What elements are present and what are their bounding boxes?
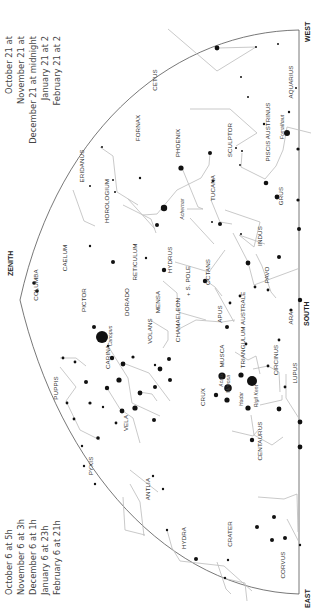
constellation-label-eridanus: ERIDANUS	[78, 150, 85, 183]
constellation-label-piscis-austrinus: PISCIS AUSTRINUS	[264, 102, 271, 161]
constellation-label-ara: ARA	[287, 311, 294, 325]
star-chart: CETUSAQUARIUSFORNAXSCULPTORPISCIS AUSTRI…	[0, 0, 320, 608]
constellation-label-volans: VOLANS	[146, 318, 153, 344]
constellation-label-antlia: ANTLIA	[144, 477, 151, 500]
west-label: WEST	[304, 21, 311, 42]
constellation-label-carina: CARINA	[104, 344, 111, 369]
constellation-label-reticulum: RETICULUM	[131, 244, 138, 281]
constellation-label-hydrus: HYDRUS	[166, 247, 173, 274]
svg-text:October 6 at 5h: October 6 at 5h	[4, 529, 14, 595]
star-label-mimosa: Mimosa	[225, 375, 231, 393]
star-label-rigil-kent: Rigil Kent	[253, 384, 259, 407]
constellation-label-corvus: CORVUS	[279, 552, 286, 579]
star-label-canopus: Canopus	[107, 325, 113, 346]
constellation-label-crux: CRUX	[199, 388, 206, 406]
constellation-label-mensa: MENSA	[154, 290, 161, 313]
svg-text:December 6 at 1h: December 6 at 1h	[28, 519, 38, 595]
constellation-label-lupus: LUPUS	[291, 362, 298, 383]
svg-text:January 21 at 2: January 21 at 2	[40, 36, 50, 101]
constellation-label-caelum: CAELUM	[61, 245, 68, 271]
star-label-fomalhaut: Fomalhaut	[279, 114, 285, 139]
constellation-label-pyxis: PYXIS	[87, 457, 94, 476]
constellation-label-vela: VELA	[122, 414, 129, 431]
constellation-label-tucana: TUCANA	[209, 174, 216, 201]
east-label: EAST	[304, 589, 311, 608]
svg-text:December 21 at midnight: December 21 at midnight	[28, 35, 38, 144]
star-label-hadar: Hadar	[238, 392, 244, 406]
south-label: SOUTH	[303, 302, 310, 327]
south-pole-label: + S. POLE	[184, 266, 191, 296]
star-label-acrux: Acrux	[218, 373, 224, 388]
svg-text:January 6 at 23h: January 6 at 23h	[40, 526, 50, 596]
constellation-labels: CETUSAQUARIUSFORNAXSCULPTORPISCIS AUSTRI…	[32, 65, 298, 578]
constellation-label-dorado: DORADO	[123, 288, 130, 316]
constellation-label-musca: MUSCA	[218, 344, 225, 368]
svg-text:November 6 at 3h: November 6 at 3h	[16, 519, 26, 595]
constellation-label-puppis: PUPPIS	[52, 376, 59, 399]
stars	[32, 43, 302, 579]
viewing-times-early: October 6 at 5h November 6 at 3h Decembe…	[4, 519, 62, 596]
svg-text:February 21 at 2: February 21 at 2	[52, 36, 62, 106]
star-label-achernar: Achernar	[179, 198, 185, 220]
constellation-label-sculptor: SCULPTOR	[226, 122, 233, 157]
constellation-label-circinus: CIRCINUS	[272, 345, 279, 376]
viewing-times-late: October 21 at November 21 at December 21…	[4, 35, 62, 144]
constellation-label-crater: CRATER	[226, 521, 233, 547]
svg-text:October 21 at: October 21 at	[4, 35, 14, 94]
constellation-label-octans: OCTANS	[204, 259, 211, 285]
constellation-label-chamaeleon: CHAMAELEON	[174, 298, 181, 342]
constellation-label-phoenix: PHOENIX	[174, 129, 181, 158]
constellation-label-indus: INDUS	[256, 226, 263, 246]
constellation-label-cetus: CETUS	[151, 69, 158, 90]
constellation-label-grus: GRUS	[277, 187, 284, 205]
constellation-label-columba: COLUMBA	[32, 269, 39, 301]
constellation-label-centaurus: CENTAURUS	[256, 422, 263, 461]
constellation-label-pictor: PICTOR	[80, 288, 87, 312]
constellation-label-pavo: PAVO	[263, 267, 270, 284]
constellation-label-horologium: HOROLOGIUM	[103, 179, 110, 223]
svg-text:November 21 at: November 21 at	[16, 35, 26, 104]
constellation-label-hydra: HYDRA	[180, 526, 187, 549]
zenith-label: ZENITH	[7, 251, 14, 276]
constellation-label-fornax: FORNAX	[134, 115, 141, 141]
constellation-label-triangulum-australe: TRIANGULUM AUSTRALE	[239, 292, 246, 369]
constellation-label-aquarius: AQUARIUS	[287, 65, 294, 98]
constellation-label-apus: APUS	[216, 305, 223, 322]
svg-text:February 6 at 21h: February 6 at 21h	[52, 520, 62, 595]
